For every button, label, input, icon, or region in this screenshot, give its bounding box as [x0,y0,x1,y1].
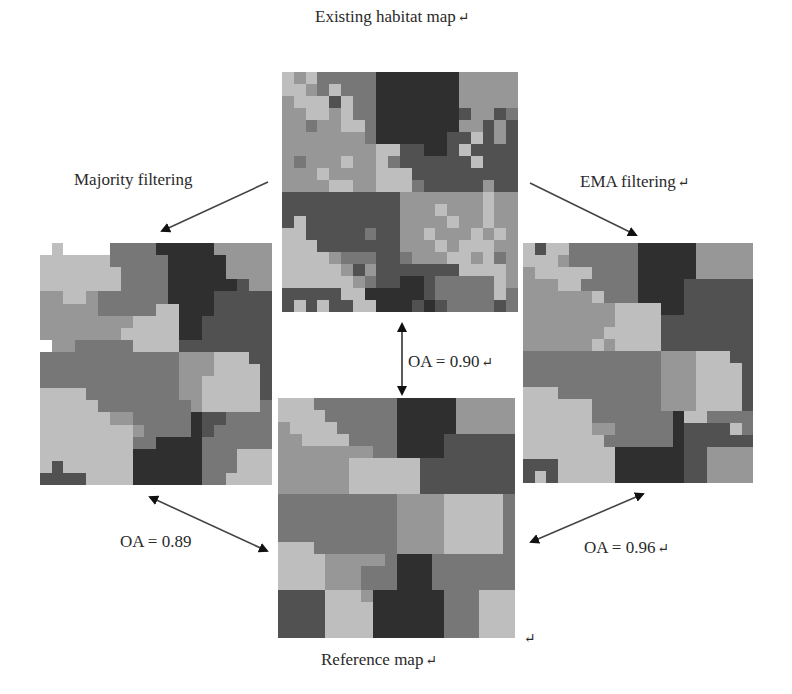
arrow-existing-to-majority [162,182,268,231]
arrows-layer [0,0,792,694]
arrow-existing-to-ema [530,183,636,235]
arrow-majority-reference [150,497,267,551]
arrow-ema-reference [531,494,643,542]
